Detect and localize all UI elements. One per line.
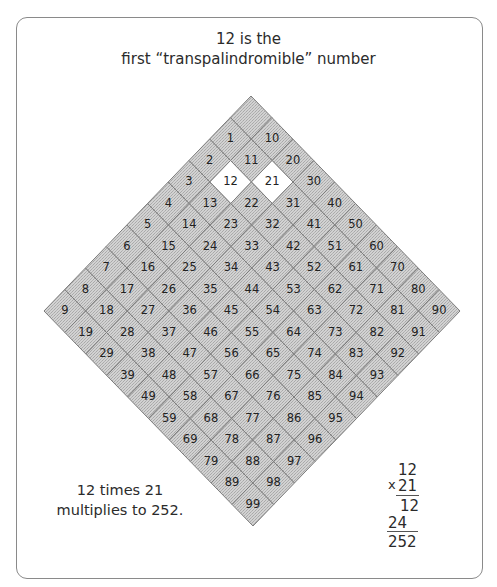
grid-cell-label: 85 (300, 388, 330, 404)
grid-cell-label: 79 (196, 453, 226, 469)
grid-cell-label: 73 (320, 324, 350, 340)
grid-cell-label: 76 (258, 388, 288, 404)
grid-cell-label: 93 (362, 367, 392, 383)
grid-cell-label: 78 (217, 431, 247, 447)
grid-cell-label: 90 (424, 302, 454, 318)
grid-cell-label: 48 (154, 367, 184, 383)
grid-cell-label: 64 (279, 324, 309, 340)
grid-cell-label: 49 (133, 388, 163, 404)
grid-cell-label: 50 (341, 216, 371, 232)
grid-cell-label: 20 (278, 152, 308, 168)
grid-cell-label: 46 (196, 324, 226, 340)
caption-line-1: 12 times 21 (30, 482, 210, 498)
grid-cell-label: 34 (216, 259, 246, 275)
grid-cell-label: 83 (341, 345, 371, 361)
grid-cell-label: 69 (175, 431, 205, 447)
grid-cell-label: 65 (258, 345, 288, 361)
grid-cell-label: 68 (196, 410, 226, 426)
grid-cell-label: 5 (133, 216, 163, 232)
grid-cell-label: 11 (236, 152, 266, 168)
number-diamond-grid: 1234567891011121314151617181920212223242… (0, 0, 497, 587)
grid-cell-label: 81 (383, 302, 413, 318)
grid-cell-label: 98 (259, 474, 289, 490)
grid-cell-label: 47 (175, 345, 205, 361)
grid-cell-label: 36 (175, 302, 205, 318)
grid-cell-label: 42 (278, 238, 308, 254)
grid-cell-label: 95 (321, 410, 351, 426)
grid-cell-label: 53 (279, 281, 309, 297)
grid-cell-label: 9 (50, 302, 80, 318)
grid-cell-label: 84 (321, 367, 351, 383)
partial-product-1: 12 (400, 498, 419, 514)
grid-cell-label: 77 (238, 410, 268, 426)
grid-cell-label: 54 (258, 302, 288, 318)
grid-cell-label: 71 (362, 281, 392, 297)
grid-cell-label: 24 (195, 238, 225, 254)
grid-cell-label: 88 (238, 453, 268, 469)
grid-cell-label: 56 (216, 345, 246, 361)
grid-cell-label: 94 (341, 388, 371, 404)
grid-cell-label: 12 (216, 173, 246, 189)
grid-cell-label: 35 (195, 281, 225, 297)
rule-1 (396, 495, 419, 496)
grid-cell-label: 22 (237, 195, 267, 211)
grid-cell-label: 30 (299, 173, 329, 189)
multiplicand: 12 (398, 462, 417, 478)
grid-cell-label: 39 (113, 367, 143, 383)
grid-cell-label: 40 (320, 195, 350, 211)
grid-cell-label: 59 (154, 410, 184, 426)
grid-cell-label: 27 (133, 302, 163, 318)
grid-cell-label: 15 (154, 238, 184, 254)
grid-cell-label: 92 (383, 345, 413, 361)
grid-cell-label: 99 (238, 496, 268, 512)
grid-cell-label: 87 (258, 431, 288, 447)
grid-cell-label: 41 (299, 216, 329, 232)
grid-cell-label: 26 (154, 281, 184, 297)
grid-cell-label: 74 (300, 345, 330, 361)
grid-cell-label: 97 (279, 453, 309, 469)
grid-cell-label: 66 (237, 367, 267, 383)
grid-cell-label: 4 (153, 195, 183, 211)
grid-cell-label: 37 (154, 324, 184, 340)
grid-cell-label: 32 (257, 216, 287, 232)
grid-cell-label: 43 (258, 259, 288, 275)
grid-cell-label: 31 (278, 195, 308, 211)
grid-cell-label: 58 (175, 388, 205, 404)
grid-cell-label: 72 (341, 302, 371, 318)
partial-product-2: 24 (388, 515, 407, 531)
multiplier: 21 (398, 478, 417, 494)
grid-cell-label: 70 (382, 259, 412, 275)
grid-cell-label: 16 (133, 259, 163, 275)
grid-cell-label: 61 (341, 259, 371, 275)
grid-cell-label: 17 (112, 281, 142, 297)
grid-cell-label: 86 (279, 410, 309, 426)
grid-cell-label: 1 (215, 130, 245, 146)
grid-cell-label: 80 (403, 281, 433, 297)
grid-cell-label: 38 (133, 345, 163, 361)
grid-cell-label: 10 (257, 130, 287, 146)
grid-cell-label: 13 (195, 195, 225, 211)
grid-cell-label: 57 (196, 367, 226, 383)
grid-cell-label: 55 (237, 324, 267, 340)
grid-cell-label: 45 (216, 302, 246, 318)
grid-cell-label: 51 (320, 238, 350, 254)
grid-cell-label: 33 (237, 238, 267, 254)
rule-2 (387, 531, 418, 532)
caption-line-2: multiplies to 252. (30, 502, 210, 518)
grid-cell-label: 75 (279, 367, 309, 383)
grid-cell-label: 62 (320, 281, 350, 297)
grid-cell-label: 96 (300, 431, 330, 447)
grid-cell-label: 82 (362, 324, 392, 340)
grid-cell-label: 67 (217, 388, 247, 404)
grid-cell-label: 89 (217, 474, 247, 490)
times-operator: x (388, 477, 396, 493)
grid-cell-label: 2 (195, 152, 225, 168)
grid-cell-label: 7 (91, 259, 121, 275)
grid-cell-label: 63 (299, 302, 329, 318)
grid-cell-label: 6 (112, 238, 142, 254)
grid-cell-label: 21 (257, 173, 287, 189)
grid-cell-label: 23 (216, 216, 246, 232)
grid-cell-label: 60 (362, 238, 392, 254)
grid-cell-label: 52 (299, 259, 329, 275)
grid-cell-label: 8 (71, 281, 101, 297)
